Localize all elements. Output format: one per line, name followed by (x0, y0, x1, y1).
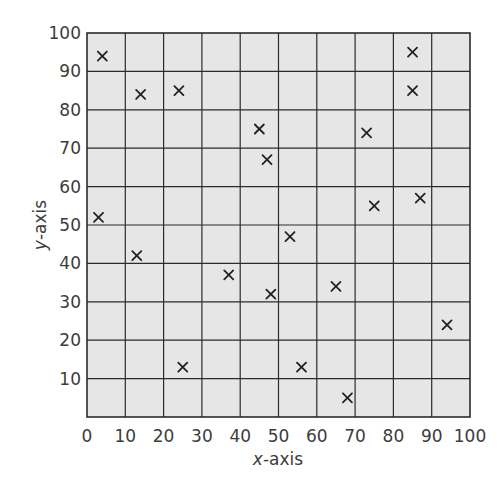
x-tick-label: 10 (114, 426, 136, 446)
y-tick-label: 90 (59, 61, 81, 81)
x-tick-label: 70 (344, 426, 366, 446)
x-tick-label: 0 (82, 426, 93, 446)
x-tick-label: 100 (454, 426, 486, 446)
y-tick-label: 30 (59, 292, 81, 312)
y-tick-label: 20 (59, 330, 81, 350)
x-tick-label: 20 (153, 426, 175, 446)
y-axis-rest: -axis (30, 200, 50, 240)
y-tick-label: 60 (59, 177, 81, 197)
y-tick-label: 40 (59, 253, 81, 273)
y-tick-label: 10 (59, 369, 81, 389)
x-tick-label: 90 (421, 426, 443, 446)
y-tick-label: 80 (59, 100, 81, 120)
scatter-chart: 0102030405060708090100 10203040506070809… (0, 0, 500, 490)
y-tick-label: 100 (49, 23, 81, 43)
y-tick-label: 50 (59, 215, 81, 235)
x-axis-rest: -axis (263, 449, 303, 469)
x-tick-label: 40 (229, 426, 251, 446)
y-axis-title: y-axis (30, 200, 50, 251)
y-tick-label: 70 (59, 138, 81, 158)
y-axis-ticks: 102030405060708090100 (49, 23, 81, 389)
x-axis-ticks: 0102030405060708090100 (82, 426, 487, 446)
x-tick-label: 30 (191, 426, 213, 446)
x-tick-label: 80 (383, 426, 405, 446)
x-tick-label: 50 (268, 426, 290, 446)
x-tick-label: 60 (306, 426, 328, 446)
x-axis-title: x-axis (252, 449, 303, 469)
